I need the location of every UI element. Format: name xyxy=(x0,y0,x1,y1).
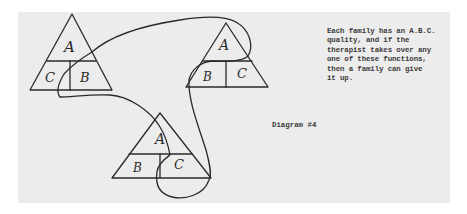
label-bottom-a: A xyxy=(153,131,165,147)
label-bottom-b: B xyxy=(132,161,142,175)
label-left-a: A xyxy=(62,38,75,56)
label-left-c: C xyxy=(45,70,55,85)
explanatory-note: Each family has an A.B.C. quality, and i… xyxy=(327,27,452,83)
label-right-a: A xyxy=(217,37,229,53)
label-left-b: B xyxy=(79,70,90,85)
diagram-caption: Diagram #4 xyxy=(272,121,316,129)
triangle-right xyxy=(186,23,268,87)
label-bottom-c: C xyxy=(174,157,184,172)
label-right-c: C xyxy=(237,66,247,81)
label-right-b: B xyxy=(202,70,212,84)
